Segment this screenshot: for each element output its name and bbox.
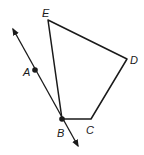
label-b: B <box>57 127 64 139</box>
line-ab <box>13 29 78 146</box>
geometry-diagram: E D C B A <box>0 0 144 155</box>
label-a: A <box>22 66 30 78</box>
polygon-bcde <box>48 20 127 119</box>
point-a <box>32 67 38 73</box>
label-c: C <box>86 124 94 136</box>
label-d: D <box>130 54 138 66</box>
label-e: E <box>42 7 50 19</box>
point-b <box>59 116 65 122</box>
